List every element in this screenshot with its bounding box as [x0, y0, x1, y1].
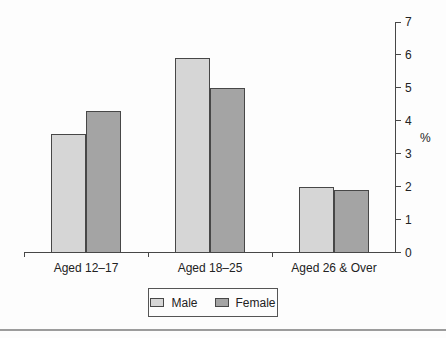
legend-label-female: Female [236, 296, 276, 310]
y-axis-unit-label: % [420, 131, 431, 145]
y-axis-tick-label-5: 5 [405, 81, 412, 95]
y-axis-tick-label-2: 2 [405, 180, 412, 194]
y-axis-tick-label-4: 4 [405, 114, 412, 128]
y-axis-tick-4 [396, 120, 401, 121]
legend: Male Female [148, 288, 278, 317]
bar-male-group-3 [299, 187, 334, 253]
legend-swatch-male [150, 298, 164, 307]
y-axis-tick-0 [396, 252, 401, 253]
bar-female-group-2 [210, 88, 245, 253]
legend-swatch-female [215, 298, 229, 307]
x-category-label-2: Aged 18–25 [148, 261, 272, 275]
x-axis-tick-3 [272, 253, 273, 257]
bottom-divider-rule [0, 329, 446, 331]
bar-male-group-1 [51, 134, 86, 253]
y-axis-tick-label-1: 1 [405, 213, 412, 227]
bar-chart-figure: Aged 12–17Aged 18–25Aged 26 & Over012345… [0, 0, 446, 338]
bar-female-group-1 [86, 111, 121, 253]
y-axis-tick-label-7: 7 [405, 15, 412, 29]
plot-area: Aged 12–17Aged 18–25Aged 26 & Over012345… [24, 22, 396, 253]
y-axis-tick-5 [396, 87, 401, 88]
x-category-label-3: Aged 26 & Over [272, 261, 396, 275]
bar-female-group-3 [334, 190, 369, 253]
y-axis-tick-6 [396, 54, 401, 55]
y-axis-tick-2 [396, 186, 401, 187]
x-category-label-1: Aged 12–17 [24, 261, 148, 275]
y-axis-tick-label-0: 0 [405, 246, 412, 260]
y-axis-tick-7 [396, 22, 401, 23]
x-axis-tick-2 [148, 253, 149, 257]
y-axis-tick-label-3: 3 [405, 147, 412, 161]
bar-male-group-2 [175, 58, 210, 253]
y-axis-tick-1 [396, 219, 401, 220]
legend-label-male: Male [171, 296, 197, 310]
y-axis-tick-label-6: 6 [405, 48, 412, 62]
y-axis-tick-3 [396, 153, 401, 154]
x-axis-tick-1 [24, 253, 25, 257]
